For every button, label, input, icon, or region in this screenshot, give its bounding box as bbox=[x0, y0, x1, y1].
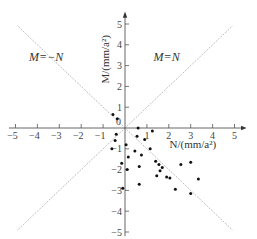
x-tick-label: −1 bbox=[95, 130, 106, 141]
data-point bbox=[110, 147, 113, 150]
y-tick-label: −5 bbox=[111, 227, 122, 238]
data-point bbox=[168, 176, 171, 179]
x-tick-label: −5 bbox=[7, 130, 18, 141]
data-point bbox=[165, 175, 168, 178]
data-point bbox=[159, 169, 162, 172]
axes: −5−4−3−2−11234554321−1−2−3−4−50 bbox=[7, 12, 246, 238]
x-axis-title: N/(mm/a²) bbox=[170, 138, 217, 151]
data-point bbox=[174, 188, 177, 191]
label-m-equals-n: M=N bbox=[153, 50, 181, 64]
data-point bbox=[127, 156, 130, 159]
x-tick-label: 5 bbox=[232, 130, 237, 141]
data-point bbox=[138, 165, 141, 168]
data-point bbox=[136, 135, 139, 138]
data-point bbox=[138, 183, 141, 186]
data-point bbox=[115, 133, 118, 136]
data-point bbox=[116, 117, 119, 120]
y-tick-label: 4 bbox=[117, 39, 122, 50]
label-m-equals-minus-n: M=−N bbox=[28, 50, 64, 64]
y-tick-label: −2 bbox=[111, 164, 122, 175]
x-tick-label: −4 bbox=[29, 130, 40, 141]
data-point bbox=[197, 177, 200, 180]
data-point bbox=[125, 143, 128, 146]
y-tick-label: −4 bbox=[111, 206, 122, 217]
data-point bbox=[189, 161, 192, 164]
data-point bbox=[189, 192, 192, 195]
data-point bbox=[137, 127, 140, 130]
y-tick-label: 1 bbox=[117, 102, 122, 113]
data-point bbox=[120, 162, 123, 165]
data-point bbox=[179, 163, 182, 166]
y-axis-arrow-icon bbox=[123, 12, 127, 18]
y-axis-title: M/(mm/a²) bbox=[99, 35, 112, 84]
data-point bbox=[121, 187, 124, 190]
x-tick-label: −3 bbox=[51, 130, 62, 141]
data-point bbox=[151, 130, 154, 133]
y-tick-label: 2 bbox=[117, 81, 122, 92]
scatter-chart: −5−4−3−2−11234554321−1−2−3−4−50 N/(mm/a²… bbox=[0, 0, 257, 239]
data-point bbox=[140, 154, 143, 157]
data-point bbox=[149, 147, 152, 150]
x-axis-arrow-icon bbox=[241, 126, 246, 130]
data-point bbox=[143, 138, 146, 141]
data-point bbox=[114, 139, 117, 142]
y-tick-label: −3 bbox=[111, 185, 122, 196]
y-tick-label: 3 bbox=[117, 60, 122, 71]
data-point bbox=[111, 113, 114, 116]
data-point bbox=[161, 166, 164, 169]
data-point bbox=[154, 160, 157, 163]
y-tick-label: 5 bbox=[117, 19, 122, 30]
data-point bbox=[126, 168, 129, 171]
x-tick-label: −2 bbox=[73, 130, 84, 141]
data-point bbox=[155, 174, 158, 177]
data-points bbox=[110, 113, 200, 195]
data-point bbox=[157, 163, 160, 166]
data-point bbox=[133, 149, 136, 152]
